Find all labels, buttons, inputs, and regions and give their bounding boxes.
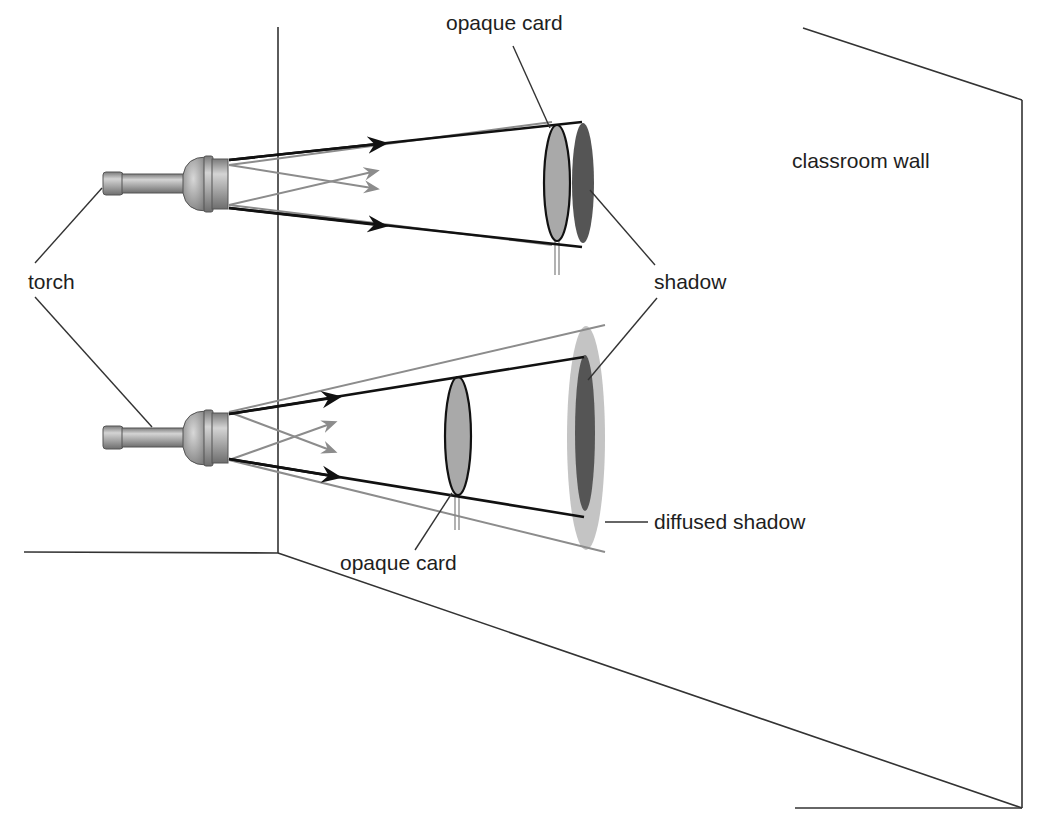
leader-shadow-bottom	[588, 298, 657, 380]
label-diffused-shadow: diffused shadow	[654, 510, 806, 533]
room-outline	[24, 27, 1022, 808]
torch-bottom	[103, 410, 228, 466]
opaque-card-bottom	[445, 377, 471, 495]
label-shadow: shadow	[654, 270, 727, 293]
torch-top	[103, 156, 228, 212]
leader-lines	[35, 46, 657, 550]
label-opaque-card-bottom: opaque card	[340, 551, 457, 574]
light-ray	[229, 460, 605, 552]
opaque-card-top	[544, 125, 570, 241]
light-ray-arrow	[229, 424, 330, 460]
bottom-scene	[103, 325, 605, 552]
leader-shadow-top	[590, 190, 655, 265]
leader-opaque-card-top	[513, 46, 550, 128]
leader-torch-bottom	[35, 297, 152, 427]
label-torch: torch	[28, 270, 75, 293]
edge-ray-arrow	[229, 144, 378, 160]
light-ray-arrow	[229, 412, 330, 450]
leader-opaque-card-bottom	[415, 493, 452, 550]
shadow-bottom	[575, 355, 595, 511]
floor-left-line	[24, 552, 278, 553]
top-scene	[103, 122, 594, 275]
light-ray	[229, 325, 605, 412]
shadow-top	[572, 123, 594, 243]
leader-torch-top	[35, 188, 102, 263]
label-classroom-wall: classroom wall	[792, 149, 930, 172]
edge-ray-arrow	[229, 208, 378, 225]
floor-wall-edge-line	[278, 553, 1022, 808]
wall-top-edge-line	[803, 28, 1022, 100]
label-opaque-card-top: opaque card	[446, 11, 563, 34]
shadow-diagram: opaque card classroom wall torch shadow …	[0, 0, 1042, 827]
